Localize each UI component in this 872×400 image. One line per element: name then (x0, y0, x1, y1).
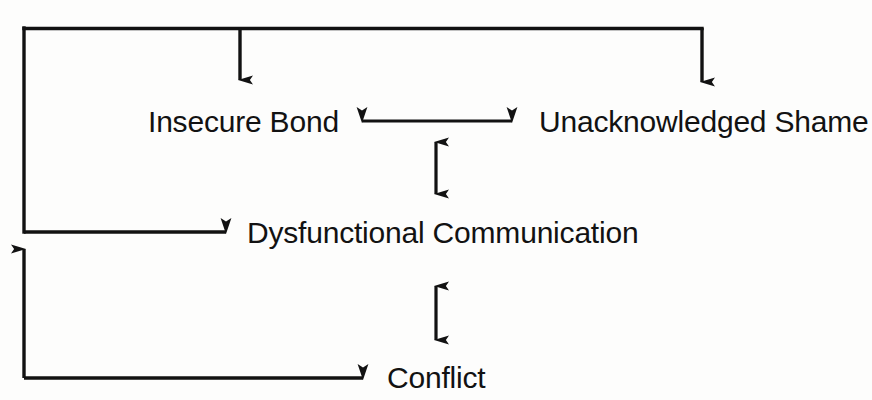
node-unacknowledged-shame: Unacknowledged Shame (539, 107, 869, 137)
node-conflict: Conflict (387, 363, 485, 393)
diagram-connectors (0, 0, 872, 400)
node-insecure-bond: Insecure Bond (148, 107, 339, 137)
node-dysfunctional-communication: Dysfunctional Communication (247, 218, 638, 248)
diagram-canvas: Insecure Bond Unacknowledged Shame Dysfu… (0, 0, 872, 400)
edge-conflict-to-top-bus (24, 28, 702, 378)
